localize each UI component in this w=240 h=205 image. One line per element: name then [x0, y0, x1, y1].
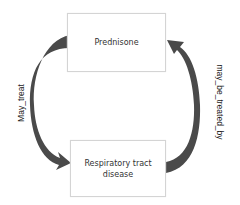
arrow-may-treat: [30, 35, 71, 170]
edge-label-may-treat: May_treat: [16, 84, 26, 122]
arrow-may-be-treated-by: [166, 40, 200, 173]
node-prednisone-label: Prednisone: [94, 37, 138, 48]
node-prednisone: Prednisone: [67, 13, 166, 72]
node-respiratory-label: Respiratory tract disease: [77, 158, 159, 180]
node-respiratory-tract-disease: Respiratory tract disease: [70, 140, 166, 197]
edge-label-may-be-treated-by: may_be_treated_by: [215, 64, 225, 139]
